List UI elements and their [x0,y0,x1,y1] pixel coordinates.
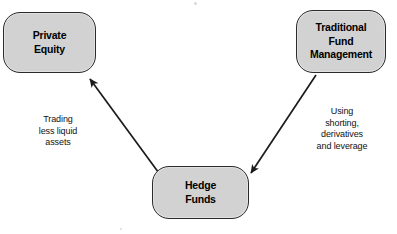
node-private-equity-label: Private Equity [29,29,71,56]
node-hedge-funds: Hedge Funds [152,166,249,219]
node-private-equity: Private Equity [3,12,96,73]
node-traditional-fund-management: Traditional Fund Management [296,10,386,73]
diagram-canvas: Private Equity Traditional Fund Manageme… [0,0,397,234]
edge-hedge-to-private-equity [90,79,164,180]
scan-speck [120,228,122,230]
scan-speck [194,2,197,5]
edge-label-using-shorting-derivatives-leverage: Using shorting, derivatives and leverage [296,106,388,152]
node-hedge-funds-label: Hedge Funds [181,179,220,206]
node-traditional-fund-management-label: Traditional Fund Management [306,21,376,62]
edge-label-trading-less-liquid-assets: Trading less liquid assets [22,114,94,149]
